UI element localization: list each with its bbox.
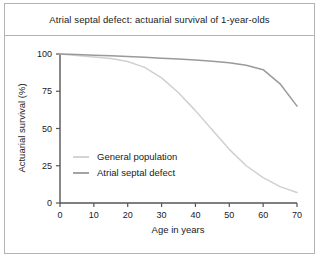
y-axis-title: Actuarial survival (%)	[16, 83, 27, 172]
series-line	[60, 54, 297, 193]
x-tick-label: 20	[123, 210, 133, 220]
y-tick-label: 0	[47, 198, 52, 208]
title-bar: Atrial septal defect: actuarial survival…	[5, 4, 314, 36]
legend-label: General population	[97, 151, 177, 162]
y-tick-label: 100	[37, 49, 52, 59]
figure-frame: Atrial septal defect: actuarial survival…	[4, 3, 315, 254]
x-tick-label: 70	[292, 210, 302, 220]
y-tick-group: 0255075100	[37, 49, 60, 208]
x-tick-group: 010203040506070	[57, 203, 302, 220]
line-chart: 0255075100 010203040506070 General popul…	[5, 36, 316, 254]
legend: General populationAtrial septal defect	[73, 151, 177, 178]
x-tick-label: 30	[157, 210, 167, 220]
x-tick-label: 60	[258, 210, 268, 220]
series-group	[60, 54, 297, 193]
x-axis-title: Age in years	[152, 224, 205, 235]
axes	[60, 54, 297, 203]
y-tick-label: 50	[42, 124, 52, 134]
x-tick-label: 0	[57, 210, 62, 220]
x-tick-label: 40	[190, 210, 200, 220]
series-line	[60, 54, 297, 106]
y-tick-label: 75	[42, 86, 52, 96]
legend-label: Atrial septal defect	[97, 167, 176, 178]
x-tick-label: 50	[224, 210, 234, 220]
y-tick-label: 25	[42, 161, 52, 171]
page-title: Atrial septal defect: actuarial survival…	[49, 14, 269, 25]
x-tick-label: 10	[89, 210, 99, 220]
plot-region: 0255075100 010203040506070 General popul…	[5, 36, 314, 253]
